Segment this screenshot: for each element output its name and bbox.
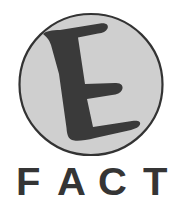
e-fact-logo: F A C T (0, 0, 188, 209)
wordmark-letter-a: A (57, 164, 86, 197)
wordmark-letter-c: C (98, 164, 127, 197)
wordmark: F A C T (0, 164, 188, 198)
wordmark-letter-t: T (143, 164, 167, 197)
wordmark-letter-f: F (16, 164, 40, 197)
e-emblem-icon (0, 0, 188, 160)
